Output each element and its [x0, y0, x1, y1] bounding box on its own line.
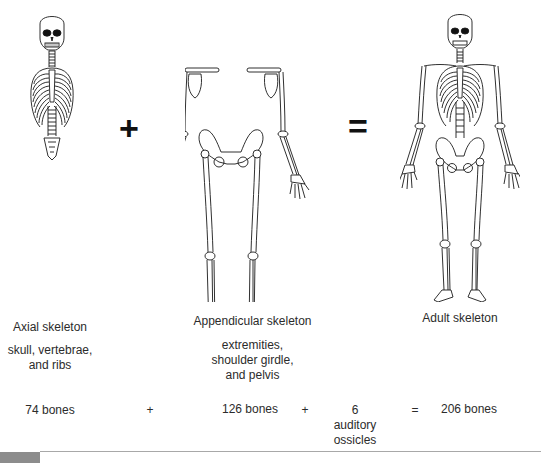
adult-skeleton-icon [400, 12, 520, 302]
ossicles-number: 6 [325, 403, 385, 418]
axial-skeleton-title: Axial skeleton [0, 320, 100, 335]
adult-skeleton-illustration [400, 12, 520, 302]
axial-bone-count: 74 bones [20, 403, 80, 418]
adult-bone-count: 206 bones [433, 402, 505, 417]
equation-plus-2: + [295, 403, 315, 418]
adult-skeleton-title: Adult skeleton [410, 311, 510, 326]
appendicular-skeleton-title: Appendicular skeleton [180, 314, 325, 329]
axial-skeleton-icon [22, 10, 82, 160]
big-plus-operator: + [119, 111, 139, 145]
axial-description-line-2: and ribs [0, 358, 100, 373]
axial-description-line-1: skull, vertebrae, [0, 343, 100, 358]
auditory-ossicles-count: 6 auditory ossicles [325, 403, 385, 448]
appendicular-description-line-1: extremities, [180, 338, 325, 353]
caption-divider [40, 451, 541, 452]
ossicles-line-2: ossicles [325, 433, 385, 448]
big-equals-operator: = [348, 109, 368, 143]
axial-skeleton-illustration [22, 10, 82, 160]
ossicles-line-1: auditory [325, 418, 385, 433]
appendicular-skeleton-description: extremities, shoulder girdle, and pelvis [180, 338, 325, 383]
appendicular-bone-count: 126 bones [215, 402, 285, 417]
appendicular-skeleton-icon [185, 62, 315, 302]
axial-skeleton-description: skull, vertebrae, and ribs [0, 343, 100, 373]
appendicular-description-line-3: and pelvis [180, 368, 325, 383]
appendicular-skeleton-illustration [185, 62, 315, 302]
equation-plus-1: + [140, 403, 160, 418]
equation-equals: = [405, 403, 425, 418]
figure-number-tag [0, 452, 40, 463]
appendicular-description-line-2: shoulder girdle, [180, 353, 325, 368]
